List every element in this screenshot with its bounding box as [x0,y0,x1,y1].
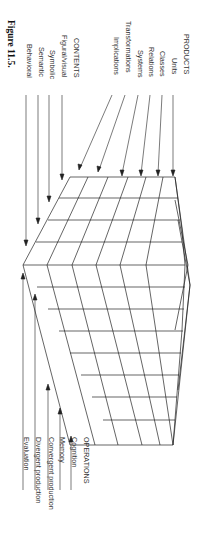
operations-heading: OPERATIONS [83,437,90,484]
operation-convergent: Convergent production [48,437,55,510]
product-transformations: Transformations [125,21,132,73]
content-behavioral: Behavioral [26,44,33,78]
content-semantic: Semantic [38,47,45,77]
product-systems: Systems [137,50,144,78]
products-heading: PRODUCTS [183,34,190,74]
operation-evaluation: Evaluation [23,437,30,471]
product-units: Units [171,58,178,74]
figure-caption: Figure 11.5. [6,20,16,68]
operation-divergent: Divergent production [35,437,42,503]
product-classes: Classes [159,51,166,77]
product-relations: Relations [148,47,155,77]
product-implications: Implications [113,37,120,75]
operation-memory: Memory [59,437,66,463]
operation-cognition: Cognition [71,437,78,467]
content-symbolic: Symbolic [49,50,56,79]
cube-diagram [0,0,212,533]
contents-heading: CONTENTS [73,38,80,78]
content-figural: Figural/visual [61,35,68,77]
